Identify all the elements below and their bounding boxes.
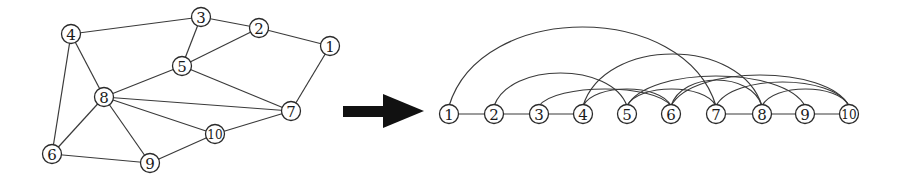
- edge-10-7: [215, 111, 291, 134]
- node-label: 7: [286, 103, 296, 121]
- node-label: 2: [254, 20, 264, 38]
- node-label: 3: [196, 9, 206, 27]
- left-node-1: 1: [321, 37, 340, 56]
- linear-node-6: 6: [662, 105, 681, 124]
- linear-node-1: 1: [440, 105, 459, 124]
- linear-node-10: 10: [840, 105, 859, 124]
- graph-transformation-diagram: 12345678910 12345678910: [0, 0, 899, 181]
- left-node-6: 6: [43, 145, 62, 164]
- linear-node-4: 4: [574, 105, 593, 124]
- edge-8-9: [104, 97, 150, 163]
- node-label: 6: [666, 106, 676, 124]
- node-label: 10: [207, 128, 222, 142]
- left-node-5: 5: [173, 57, 192, 76]
- edge-5-8: [104, 66, 182, 97]
- linear-layout-arcs: [449, 27, 849, 106]
- left-node-4: 4: [62, 25, 81, 44]
- right-arrow-icon: [343, 94, 424, 128]
- node-label: 10: [841, 108, 856, 122]
- node-label: 8: [99, 89, 109, 107]
- node-label: 1: [325, 38, 335, 56]
- left-node-7: 7: [282, 102, 301, 121]
- linear-node-2: 2: [485, 105, 504, 124]
- node-label: 5: [177, 58, 187, 76]
- node-label: 7: [711, 106, 721, 124]
- linear-node-5: 5: [618, 105, 637, 124]
- node-label: 9: [800, 106, 810, 124]
- left-node-2: 2: [250, 19, 269, 38]
- left-node-8: 8: [95, 88, 114, 107]
- edge-1-7: [291, 46, 330, 111]
- linear-node-8: 8: [753, 105, 772, 124]
- node-label: 4: [66, 26, 76, 44]
- arc-7-10: [716, 82, 849, 106]
- edge-10-9: [150, 134, 215, 163]
- left-node-10: 10: [206, 125, 225, 144]
- node-label: 3: [534, 106, 544, 124]
- left-graph-edges: [52, 17, 330, 163]
- left-node-3: 3: [192, 8, 211, 27]
- node-label: 2: [489, 106, 499, 124]
- node-label: 4: [578, 106, 588, 124]
- node-label: 5: [622, 106, 632, 124]
- edge-4-3: [71, 17, 201, 34]
- linear-layout-nodes: 12345678910: [440, 105, 859, 124]
- linear-node-7: 7: [707, 105, 726, 124]
- arc-6-8: [671, 80, 762, 106]
- left-node-9: 9: [141, 154, 160, 173]
- node-label: 9: [145, 155, 155, 173]
- node-label: 6: [47, 146, 57, 164]
- linear-node-3: 3: [530, 105, 549, 124]
- edge-2-1: [259, 28, 330, 46]
- node-label: 1: [444, 106, 454, 124]
- arc-1-7: [449, 27, 716, 106]
- edge-6-9: [52, 154, 150, 163]
- linear-node-9: 9: [796, 105, 815, 124]
- edge-5-2: [182, 28, 259, 66]
- edge-8-10: [104, 97, 215, 134]
- node-label: 8: [757, 106, 767, 124]
